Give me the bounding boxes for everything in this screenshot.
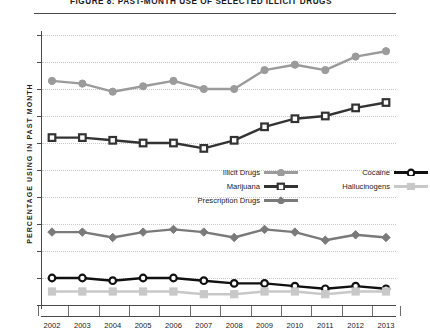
- data-point: [200, 228, 208, 236]
- data-point: [201, 277, 208, 284]
- x-tick-mark: [129, 306, 130, 316]
- data-point: [230, 233, 238, 241]
- data-point: [79, 80, 86, 87]
- series-prescription-drugs: [48, 225, 390, 244]
- x-tick-mark: [220, 306, 221, 316]
- x-tick-mark: [372, 306, 373, 316]
- y-tick-mark: [37, 143, 41, 144]
- y-tick-mark: [37, 251, 41, 252]
- x-tick-mark: [251, 306, 252, 316]
- legend-item-prescription-drugs[interactable]: Prescription Drugs: [150, 195, 300, 206]
- series-marijuana: [49, 99, 390, 152]
- series-illicit-drugs: [48, 48, 389, 96]
- data-point: [170, 288, 177, 295]
- legend-item-marijuana[interactable]: Marijuana: [150, 181, 300, 192]
- y-tick-mark: [37, 224, 41, 225]
- title-divider: [34, 13, 396, 14]
- x-tick-mark: [311, 306, 312, 316]
- data-point: [109, 288, 116, 295]
- series-line: [52, 103, 386, 149]
- x-tick-mark: [190, 306, 191, 316]
- data-point: [78, 228, 86, 236]
- data-point: [48, 77, 55, 84]
- y-tick-mark: [37, 116, 41, 117]
- x-tick-mark: [68, 306, 69, 316]
- legend-item-cocaine[interactable]: Cocaine: [290, 167, 430, 178]
- data-point: [291, 61, 298, 68]
- legend-label: Illicit Drugs: [150, 168, 260, 177]
- series-line: [52, 51, 386, 91]
- data-point: [139, 228, 147, 236]
- y-tick-mark: [37, 278, 41, 279]
- series-hallucinogens: [48, 288, 389, 298]
- legend-swatch-icon: [394, 167, 428, 178]
- y-axis-title: PERCENTAGE USING IN PAST MONTH: [26, 49, 33, 279]
- data-point: [109, 233, 117, 241]
- data-point: [231, 291, 238, 298]
- data-point: [291, 228, 299, 236]
- series-cocaine: [49, 275, 390, 292]
- series-line: [52, 292, 386, 295]
- data-point: [79, 134, 86, 141]
- data-point: [352, 53, 359, 60]
- series-line: [52, 278, 386, 289]
- data-point: [49, 275, 56, 282]
- y-tick-mark: [37, 62, 41, 63]
- data-point: [260, 225, 268, 233]
- page-title: FIGURE 8: PAST-MONTH USE OF SELECTED ILL…: [0, 0, 402, 6]
- data-point: [351, 231, 359, 239]
- data-point: [261, 280, 268, 287]
- data-point: [231, 280, 238, 287]
- x-axis-baseline: [41, 316, 396, 317]
- data-point: [201, 145, 208, 152]
- data-point: [382, 48, 389, 55]
- data-point: [140, 140, 147, 147]
- x-tick-label: 2013: [366, 321, 406, 330]
- data-point: [48, 288, 55, 295]
- data-point: [291, 288, 298, 295]
- data-point: [139, 83, 146, 90]
- data-point: [261, 288, 268, 295]
- data-point: [261, 124, 268, 131]
- data-point: [231, 85, 238, 92]
- data-point: [200, 291, 207, 298]
- y-tick-mark: [37, 197, 41, 198]
- x-tick-mark: [38, 306, 39, 316]
- data-point: [322, 291, 329, 298]
- legend-item-illicit-drugs[interactable]: Illicit Drugs: [150, 167, 300, 178]
- data-point: [321, 236, 329, 244]
- data-point: [109, 137, 116, 144]
- y-tick-mark: [37, 170, 41, 171]
- data-point: [383, 99, 390, 106]
- data-point: [352, 288, 359, 295]
- x-tick-mark: [99, 306, 100, 316]
- data-point: [382, 288, 389, 295]
- legend-item-hallucinogens[interactable]: Hallucinogens: [290, 181, 430, 192]
- data-point: [292, 115, 299, 122]
- data-point: [382, 233, 390, 241]
- data-point: [79, 275, 86, 282]
- data-point: [170, 140, 177, 147]
- data-point: [322, 113, 329, 120]
- data-point: [261, 67, 268, 74]
- series-line: [52, 229, 386, 240]
- data-point: [139, 288, 146, 295]
- x-tick-mark: [159, 306, 160, 316]
- data-point: [170, 275, 177, 282]
- x-tick-mark: [342, 306, 343, 316]
- legend-label: Prescription Drugs: [150, 196, 260, 205]
- data-point: [231, 137, 238, 144]
- data-point: [352, 105, 359, 112]
- data-point: [170, 77, 177, 84]
- data-point: [140, 275, 147, 282]
- y-tick-mark: [37, 89, 41, 90]
- x-tick-mark: [400, 306, 401, 316]
- legend-label: Hallucinogens: [290, 182, 390, 191]
- data-point: [79, 288, 86, 295]
- legend-label: Cocaine: [290, 168, 390, 177]
- data-point: [322, 67, 329, 74]
- x-tick-mark: [281, 306, 282, 316]
- data-point: [109, 277, 116, 284]
- legend-label: Marijuana: [150, 182, 260, 191]
- chart-legend: Illicit DrugsMarijuanaPrescription Drugs…: [150, 167, 402, 209]
